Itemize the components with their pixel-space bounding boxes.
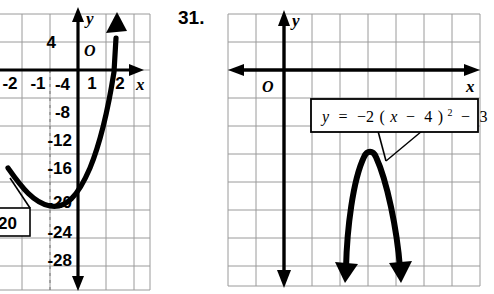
left-figure-panel: 20 4 -4 -8 -12 -16 -20 -24 -28 -2 -1 1 2… [0,0,170,294]
right-graph-canvas: y = −2 ( x − 4 ) 2 − 3 y x O [170,0,494,294]
right-origin-label: O [262,78,274,95]
left-origin-label: O [84,42,96,59]
eq-minus-2: − [461,108,470,125]
right-x-axis [228,64,480,76]
left-grid [0,14,150,290]
left-y-axis-label: y [84,9,94,28]
left-ytick-neg12: -12 [47,131,72,150]
left-x-axis-label: x [135,75,145,94]
right-parabola-left-arrowhead [335,262,358,283]
left-ytick-neg16: -16 [47,159,72,178]
left-xtick-2: 2 [115,74,124,93]
left-xtick-neg1: -1 [30,74,45,93]
eq-coefficient: −2 [357,108,374,125]
right-parabola-right-arrowhead [389,261,412,283]
right-x-axis-label: x [465,77,475,96]
right-y-axis-label: y [290,11,300,30]
right-y-axis [277,10,291,288]
left-parabola-arrowhead [106,12,127,33]
eq-open-paren: ( [380,108,385,126]
left-xtick-1: 1 [87,74,96,93]
right-grid [228,14,480,286]
eq-lhs: y [320,108,330,126]
eq-equals: = [339,108,348,125]
eq-close-paren: ) [438,108,443,126]
left-callout-value: 20 [0,214,17,233]
eq-k-value: 3 [480,108,488,125]
eq-h-value: 4 [424,108,432,125]
left-parabola-curve [8,38,116,206]
left-callout-box: 20 [0,208,30,236]
left-y-axis [72,7,84,291]
left-ytick-neg8: -8 [55,103,70,122]
left-ytick-neg4: -4 [55,75,71,94]
eq-exponent: 2 [448,107,453,118]
left-ytick-4: 4 [47,33,57,52]
left-ytick-neg28: -28 [47,251,72,270]
left-graph-canvas: 20 4 -4 -8 -12 -16 -20 -24 -28 -2 -1 1 2… [0,0,170,294]
left-ytick-neg24: -24 [47,223,72,242]
left-xtick-neg2: -2 [2,74,17,93]
right-equation-callout: y = −2 ( x − 4 ) 2 − 3 [311,99,488,132]
eq-minus: − [406,108,415,125]
right-figure-panel: 31. [170,0,494,294]
eq-variable: x [389,108,397,125]
left-ytick-neg20: -20 [47,193,72,212]
right-callout-leader [378,131,422,161]
